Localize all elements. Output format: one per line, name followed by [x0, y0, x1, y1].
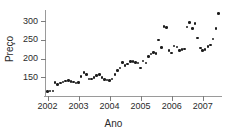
- data-point: [126, 63, 129, 66]
- data-point: [98, 73, 101, 76]
- data-point: [85, 73, 88, 76]
- data-point: [157, 39, 160, 42]
- data-point: [111, 78, 114, 81]
- y-axis-title: Preço: [5, 26, 15, 72]
- data-point: [49, 90, 52, 93]
- data-point: [170, 52, 173, 55]
- y-axis-tick: [41, 21, 46, 22]
- x-axis-tick-label: 2004: [95, 101, 125, 111]
- data-point: [176, 46, 179, 49]
- data-point: [147, 55, 150, 58]
- data-point: [191, 27, 194, 30]
- data-point: [137, 62, 140, 65]
- y-axis-tick: [41, 40, 46, 41]
- data-point: [114, 73, 117, 76]
- data-point: [160, 46, 163, 49]
- y-axis-line: [45, 10, 46, 97]
- data-point: [196, 37, 199, 40]
- y-axis-tick-label: 300: [16, 17, 38, 26]
- data-point: [119, 67, 122, 70]
- data-point: [215, 27, 218, 30]
- data-point: [194, 22, 197, 25]
- data-point: [142, 60, 145, 63]
- data-point: [155, 52, 158, 55]
- x-axis-tick-label: 2003: [64, 101, 94, 111]
- data-point: [204, 48, 207, 51]
- data-point: [139, 67, 142, 70]
- data-point: [80, 75, 83, 78]
- data-point: [209, 44, 212, 47]
- x-axis-title: Ano: [0, 119, 227, 129]
- y-axis-tick-label: 200: [16, 54, 38, 63]
- data-point: [116, 69, 119, 72]
- x-axis-tick-label: 2005: [126, 101, 156, 111]
- data-point: [52, 90, 55, 93]
- y-axis-tick-label: 150: [16, 73, 38, 82]
- x-axis-line: [44, 96, 222, 97]
- y-axis-tick: [41, 77, 46, 78]
- price-year-scatter-chart: 150200250300 200220032004200520062007 Pr…: [0, 0, 227, 137]
- x-axis-tick-label: 2002: [33, 101, 63, 111]
- x-axis-tick-label: 2006: [157, 101, 187, 111]
- data-point: [183, 48, 186, 51]
- y-axis-tick-label: 250: [16, 35, 38, 44]
- data-point: [186, 26, 189, 29]
- data-point: [217, 12, 220, 15]
- data-point: [145, 62, 148, 65]
- x-axis-tick-label: 2007: [188, 101, 218, 111]
- data-point: [77, 81, 80, 84]
- data-point: [212, 38, 215, 41]
- y-axis-tick: [41, 59, 46, 60]
- data-point: [188, 21, 191, 24]
- data-point: [165, 26, 168, 29]
